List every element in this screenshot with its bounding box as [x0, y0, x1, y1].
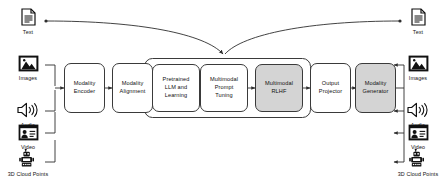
- document-icon: [21, 6, 36, 28]
- input-modality-3d-cloud-points: 3D Cloud Points: [0, 148, 56, 177]
- input-label-text: Text: [23, 29, 33, 35]
- stage-label: Pretrained LLM and Learning: [163, 76, 190, 100]
- stage-label: Multimodal RLHF: [265, 80, 293, 96]
- document-icon: [411, 6, 426, 28]
- robot-icon: [408, 148, 428, 170]
- speaker-icon: [17, 99, 40, 121]
- output-label-text: Text: [413, 29, 423, 35]
- stage-label: Modality Generator: [362, 80, 388, 96]
- input-modality-text: Text: [0, 6, 56, 35]
- stage-label: Multimodal Prompt Tuning: [210, 76, 238, 100]
- image-icon: [408, 52, 429, 74]
- image-icon: [18, 52, 39, 74]
- output-modality-text: Text: [390, 6, 446, 35]
- input-modality-video: Video: [0, 121, 56, 150]
- stage-output-projector[interactable]: Output Projector: [310, 63, 351, 113]
- stage-multimodal-rlhf[interactable]: Multimodal RLHF: [255, 64, 303, 112]
- stage-modality-encoder[interactable]: Modality Encoder: [64, 63, 105, 113]
- output-modality-images: Images: [390, 52, 446, 81]
- input-label-images: Images: [19, 75, 37, 81]
- stage-modality-alignment[interactable]: Modality Alignment: [112, 63, 153, 113]
- stage-pretrained-llm-and-learning[interactable]: Pretrained LLM and Learning: [152, 64, 200, 112]
- stage-label: Output Projector: [319, 80, 342, 96]
- video-icon: [408, 121, 429, 143]
- robot-icon: [18, 148, 38, 170]
- output-label-3d-cloud-points: 3D Cloud Points: [398, 171, 438, 177]
- stage-label: Modality Encoder: [74, 80, 96, 96]
- output-modality-video: Video: [390, 121, 446, 150]
- pipeline-diagram: Text Images Audio: [0, 0, 446, 193]
- output-modality-3d-cloud-points: 3D Cloud Points: [390, 148, 446, 177]
- speaker-icon: [407, 99, 430, 121]
- output-label-images: Images: [409, 75, 427, 81]
- stage-multimodal-prompt-tuning[interactable]: Multimodal Prompt Tuning: [200, 64, 248, 112]
- video-icon: [18, 121, 39, 143]
- input-label-3d-cloud-points: 3D Cloud Points: [8, 171, 48, 177]
- input-modality-images: Images: [0, 52, 56, 81]
- stage-label: Modality Alignment: [120, 80, 146, 96]
